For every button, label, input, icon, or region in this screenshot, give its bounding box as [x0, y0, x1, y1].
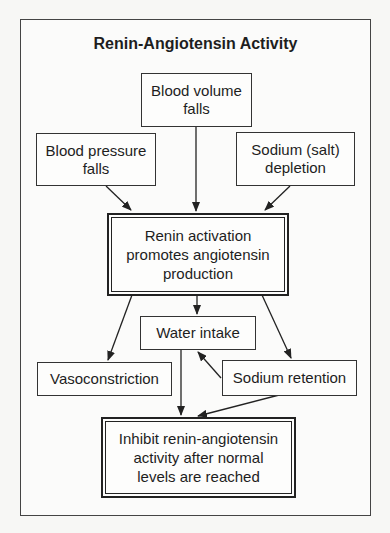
node-renin-activation-text: Renin activation promotes angiotensin pr… — [111, 217, 285, 292]
node-inhibit-text: Inhibit renin-angiotensin activity after… — [105, 421, 292, 494]
node-inhibit: Inhibit renin-angiotensin activity after… — [101, 417, 296, 498]
node-water-intake: Water intake — [140, 316, 256, 350]
node-blood-pressure: Blood pressure falls — [36, 133, 156, 186]
arrow-renin-to-vaso — [108, 295, 132, 360]
arrow-retention-to-water — [198, 352, 221, 378]
arrow-sodium-to-renin — [265, 186, 290, 210]
arrow-renin-to-retention — [262, 295, 291, 358]
arrow-retention-to-inhibit — [198, 394, 283, 416]
node-vasoconstriction: Vasoconstriction — [37, 362, 172, 396]
arrow-pressure-to-renin — [106, 186, 131, 210]
node-blood-volume: Blood volume falls — [141, 73, 252, 127]
node-sodium-depletion: Sodium (salt) depletion — [236, 132, 355, 186]
node-sodium-retention: Sodium retention — [222, 360, 357, 396]
node-renin-activation: Renin activation promotes angiotensin pr… — [107, 213, 289, 296]
